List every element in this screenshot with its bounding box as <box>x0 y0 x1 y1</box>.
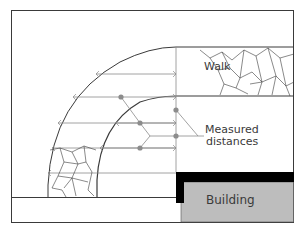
walk-label: Walk <box>204 61 230 73</box>
measured-distances-label: Measured distances <box>205 124 259 147</box>
measure-dot <box>137 145 142 150</box>
walk-layout-diagram <box>0 0 306 233</box>
building-label: Building <box>206 194 255 207</box>
measure-dot <box>137 120 142 125</box>
measured-label-line2: distances <box>205 136 259 148</box>
measure-dot <box>118 94 123 99</box>
paving-stones-corner <box>50 146 96 197</box>
measure-dot <box>173 133 178 138</box>
measurement-lines <box>48 74 176 173</box>
measure-dot <box>173 107 178 112</box>
arrow-ticks <box>48 71 176 176</box>
measured-distance-markers <box>118 94 204 150</box>
measured-label-line1: Measured <box>205 124 259 136</box>
